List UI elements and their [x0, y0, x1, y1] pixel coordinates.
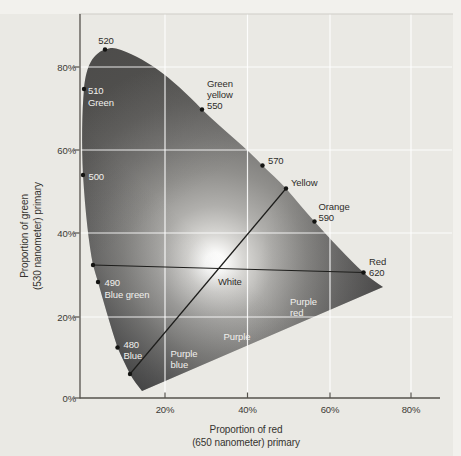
x-tick-label-40: 40%	[238, 404, 257, 415]
label-550-line3: 550	[207, 100, 223, 111]
label-purple-blue-line2: blue	[171, 359, 189, 370]
y-tick-label-40: 40%	[57, 228, 76, 239]
y-tick-label-60: 60%	[57, 145, 76, 156]
label-500: 500	[89, 171, 105, 182]
point-dot-510	[82, 87, 86, 91]
label-purple: Purple	[224, 331, 251, 342]
label-510-line1: 510	[88, 85, 104, 96]
y-tick-label-0: 0%	[62, 393, 76, 404]
point-dot-500	[81, 173, 85, 177]
label-480-line2: Blue	[124, 350, 143, 361]
label-590-line1: Orange	[319, 201, 350, 212]
point-dot-550	[200, 107, 204, 111]
point-dot-480	[115, 345, 119, 349]
label-490-line2: Blue green	[105, 289, 150, 300]
figure-canvas: 80% 60% 40% 20% 0% 20% 40% 60% 80% Propo…	[0, 0, 461, 456]
x-axis-title-line2: (650 nanometer) primary	[192, 437, 300, 448]
label-purple-red-line2: red	[290, 307, 303, 318]
label-620-line2: 620	[369, 267, 385, 278]
x-tick-label-20: 20%	[156, 404, 175, 415]
y-tick-label-80: 80%	[57, 62, 76, 73]
x-tick-label-60: 60%	[321, 404, 340, 415]
point-dot-620	[361, 270, 366, 275]
label-510-line2: Green	[88, 97, 114, 108]
point-dot-570	[260, 163, 264, 167]
point-dot-blue-line-end	[128, 372, 132, 376]
point-dot-490	[96, 280, 100, 284]
label-white: White	[218, 276, 242, 287]
x-axis-title-line1: Proportion of red	[210, 424, 283, 435]
point-dot-590	[312, 219, 316, 223]
x-tick-label-80: 80%	[402, 404, 421, 415]
y-axis-title-line2: (530 nanometer) primary	[32, 182, 43, 290]
label-490-line1: 490	[105, 277, 121, 288]
chromaticity-diagram: 80% 60% 40% 20% 0% 20% 40% 60% 80% Propo…	[0, 0, 461, 456]
label-purple-red-line1: Purple	[290, 296, 317, 307]
label-570: 570	[268, 155, 284, 166]
label-purple-blue-line1: Purple	[171, 348, 198, 359]
point-dot-yellow	[284, 186, 288, 190]
y-axis-title-line1: Proportion of green	[19, 194, 30, 278]
label-480-line1: 480	[124, 339, 140, 350]
label-550-line1: Green	[207, 78, 233, 89]
point-dot-520	[103, 47, 107, 51]
label-yellow: Yellow	[291, 177, 318, 188]
y-tick-label-20: 20%	[57, 312, 76, 323]
label-550-line2: yellow	[207, 89, 233, 100]
label-520: 520	[98, 35, 114, 46]
label-590-line2: 590	[319, 212, 335, 223]
point-dot-bluegreen-line-end	[91, 263, 95, 267]
label-620-line1: Red	[369, 256, 386, 267]
